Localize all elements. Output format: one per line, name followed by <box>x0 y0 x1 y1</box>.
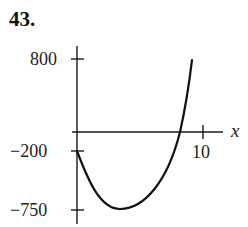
x-axis-label: x <box>230 120 240 141</box>
function-curve <box>77 60 192 209</box>
y-tick-label-neg200: −200 <box>10 141 47 161</box>
y-tick-label-neg750: −750 <box>10 200 47 220</box>
x-tick-label-10: 10 <box>192 142 210 162</box>
chart: 800 −200 −750 10 x <box>0 0 248 227</box>
y-tick-label-800: 800 <box>30 49 57 69</box>
